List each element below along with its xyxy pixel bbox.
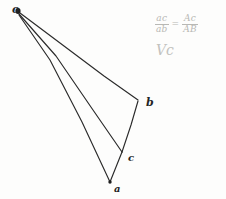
equals-sign: = [172, 20, 180, 29]
equation-right-fraction: Ac AB [182, 14, 198, 35]
right-denominator: AB [182, 25, 198, 34]
geometry-sketch-page: o b c a ac ab = Ac AB Vc [0, 0, 226, 199]
edge-o-c [19, 14, 122, 152]
vertex-label-a: a [114, 184, 120, 194]
handwritten-annotation: ac ab = Ac AB Vc [155, 14, 226, 57]
ratio-equation: ac ab = Ac AB [155, 14, 226, 35]
left-numerator: ac [155, 14, 168, 23]
edge-o-a [19, 15, 110, 182]
right-numerator: Ac [183, 14, 197, 23]
edge-o-b [20, 13, 138, 100]
vertex-dot-a [108, 180, 111, 183]
vertex-label-o: o [12, 4, 19, 15]
edge-b-c [122, 101, 138, 152]
left-denominator: ab [155, 25, 169, 34]
vc-note: Vc [156, 43, 226, 57]
equation-left-fraction: ac ab [155, 14, 169, 35]
edge-c-a [110, 152, 122, 182]
vertex-label-c: c [128, 153, 134, 163]
vertex-label-b: b [146, 97, 154, 108]
